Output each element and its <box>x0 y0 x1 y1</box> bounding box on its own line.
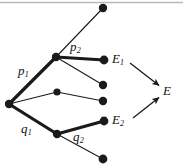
label-e1-subscript: 1 <box>120 58 124 67</box>
leaf-node-bottom <box>99 155 108 164</box>
root-node <box>5 100 13 108</box>
label-p1-base: p <box>18 63 25 78</box>
label-q2-base: q <box>73 129 80 144</box>
label-q1: q1 <box>21 122 32 135</box>
label-e1: E1 <box>112 52 124 65</box>
middle-branch-node <box>53 88 60 95</box>
edge-middle-to-leaf <box>57 92 103 101</box>
label-q1-subscript: 1 <box>28 128 32 137</box>
tree-diagram-canvas <box>0 0 183 167</box>
label-p1: p1 <box>18 64 29 77</box>
edge-upper-to-leaf-mid <box>56 57 103 85</box>
upper-branch-node <box>52 53 60 61</box>
label-q2-subscript: 2 <box>80 136 84 145</box>
arrow-e1-to-e <box>130 63 159 86</box>
label-q1-base: q <box>21 121 28 136</box>
edge-root-to-upper <box>9 57 56 104</box>
label-e2-base: E <box>112 112 120 127</box>
lower-branch-node <box>53 130 61 138</box>
edge-root-to-lower <box>9 104 57 134</box>
leaf-node-top <box>99 4 107 12</box>
leaf-node-e2 <box>100 117 109 126</box>
label-e-total: E <box>163 84 171 97</box>
probability-tree-figure: p1 p2 q1 q2 E1 E2 E <box>0 0 183 167</box>
label-e1-base: E <box>112 51 120 66</box>
leaf-node-upper-mid <box>99 81 107 89</box>
label-q2: q2 <box>73 130 84 143</box>
node-layer <box>5 4 109 164</box>
label-p2: p2 <box>70 40 81 53</box>
label-p2-base: p <box>70 39 77 54</box>
arrow-e2-to-e <box>133 98 159 119</box>
leaf-node-lower-mid <box>99 97 107 105</box>
edge-upper-to-e1 <box>56 57 104 60</box>
label-e-total-base: E <box>163 83 171 98</box>
leaf-node-e1 <box>100 56 109 65</box>
label-p2-subscript: 2 <box>77 46 81 55</box>
label-e2-subscript: 2 <box>120 119 124 128</box>
label-p1-subscript: 1 <box>25 70 29 79</box>
label-e2: E2 <box>112 113 124 126</box>
arrow-layer <box>130 63 159 118</box>
